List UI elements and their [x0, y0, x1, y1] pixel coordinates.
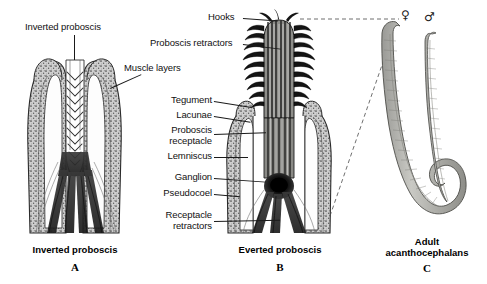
caption-panel-a: Inverted proboscis: [10, 244, 140, 255]
figure-acanthocephalan-anatomy: Inverted proboscis Muscle layers Hooks P…: [0, 0, 487, 284]
female-symbol: ♀: [401, 8, 410, 22]
panel-c-artwork: [382, 21, 466, 213]
label-hooks: Hooks: [208, 12, 234, 23]
label-tegument: Tegument: [148, 95, 212, 106]
caption-panel-b: Everted proboscis: [215, 244, 345, 255]
panel-id-a: A: [10, 261, 140, 273]
label-inverted-proboscis: Inverted proboscis: [25, 22, 101, 33]
label-proboscis-receptacle: Proboscis receptacle: [140, 125, 212, 146]
label-pseudocoel: Pseudocoel: [140, 188, 212, 199]
caption-panel-c: Adult acanthocephalans: [372, 236, 482, 258]
panel-a-artwork: [28, 59, 122, 233]
label-ganglion: Ganglion: [148, 172, 212, 183]
label-proboscis-retractors: Proboscis retractors: [150, 38, 232, 49]
label-muscle-layers: Muscle layers: [124, 63, 181, 74]
label-receptacle-retractors: Receptacle retractors: [140, 210, 212, 231]
panel-id-b: B: [215, 261, 345, 273]
label-lemniscus: Lemniscus: [144, 151, 212, 162]
leader-inverted-proboscis: [74, 35, 75, 60]
leader-lemniscus: [214, 157, 248, 158]
male-symbol: ♂: [424, 10, 435, 24]
panel-id-c: C: [372, 262, 482, 274]
label-lacunae: Lacunae: [148, 110, 212, 121]
